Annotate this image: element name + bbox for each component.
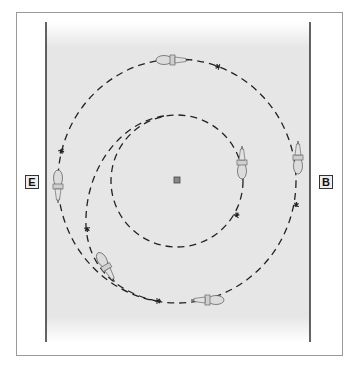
arena-diagram: [0, 0, 353, 369]
marker-e: E: [25, 175, 39, 189]
marker-b: B: [319, 175, 333, 189]
center-marker-x: [174, 177, 180, 183]
